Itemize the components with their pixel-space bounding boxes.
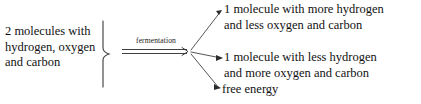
product-1-line-1: 1 molecule with less hydrogen (224, 50, 420, 66)
product-item: free energy (222, 82, 418, 98)
grouping-brace-icon (101, 20, 119, 88)
product-1-line-2: and more oxygen and carbon (224, 66, 420, 82)
product-2-line-1: free energy (222, 82, 418, 98)
product-item: 1 molecule with less hydrogen and more o… (224, 50, 420, 81)
reactants-line-1: 2 molecules with (5, 24, 100, 40)
fermentation-reaction-diagram: 2 molecules with hydrogen, oxygen and ca… (0, 0, 421, 104)
reactants-line-2: hydrogen, oxygen (5, 40, 100, 56)
reactants-line-3: and carbon (5, 55, 100, 71)
product-0-line-1: 1 molecule with more hydrogen (224, 2, 420, 18)
reactants-block: 2 molecules with hydrogen, oxygen and ca… (5, 24, 100, 71)
fermentation-label: fermentation (124, 36, 188, 45)
product-item: 1 molecule with more hydrogen and less o… (224, 2, 420, 33)
product-0-line-2: and less oxygen and carbon (224, 18, 420, 34)
